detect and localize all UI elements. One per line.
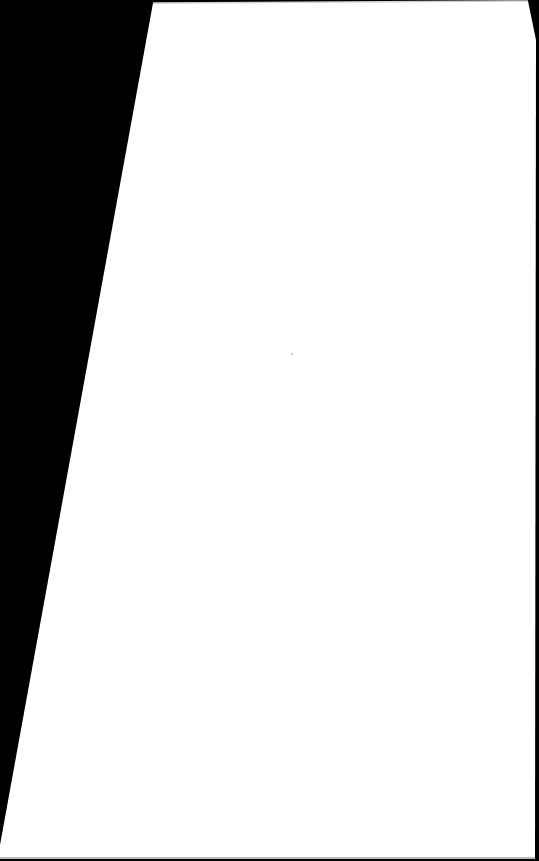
paper-sheet bbox=[0, 0, 539, 861]
scanned-document bbox=[0, 0, 539, 861]
dust-speck bbox=[291, 353, 293, 355]
